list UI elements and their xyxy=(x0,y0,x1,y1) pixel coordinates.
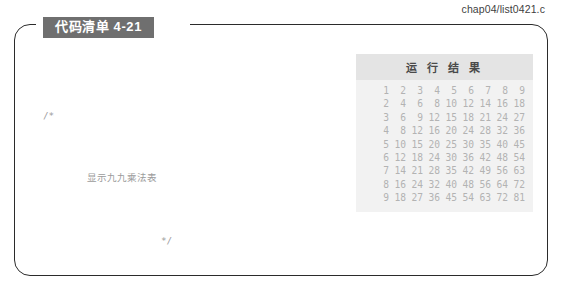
table-cell: 8 xyxy=(423,97,440,110)
table-row: 4812162024283236 xyxy=(364,124,525,137)
table-cell: 16 xyxy=(423,124,440,137)
table-cell: 18 xyxy=(389,191,406,204)
table-cell: 18 xyxy=(508,97,525,110)
table-cell: 45 xyxy=(508,138,525,151)
table-cell: 9 xyxy=(406,111,423,124)
table-cell: 48 xyxy=(491,151,508,164)
table-cell: 32 xyxy=(491,124,508,137)
source-file-path: chap04/list0421.c xyxy=(462,3,545,15)
run-result-title: 运 行 结 果 xyxy=(356,54,533,80)
table-cell: 4 xyxy=(389,97,406,110)
table-cell: 81 xyxy=(508,191,525,204)
table-cell: 15 xyxy=(406,138,423,151)
table-cell: 20 xyxy=(440,124,457,137)
table-cell: 5 xyxy=(372,138,389,151)
table-cell: 7 xyxy=(372,164,389,177)
table-cell: 36 xyxy=(423,191,440,204)
table-cell: 30 xyxy=(457,138,474,151)
table-cell: 12 xyxy=(406,124,423,137)
table-cell: 4 xyxy=(423,84,440,97)
table-cell: 24 xyxy=(457,124,474,137)
table-cell: 14 xyxy=(474,97,491,110)
table-cell: 18 xyxy=(406,151,423,164)
table-cell: 5 xyxy=(440,84,457,97)
table-cell: 2 xyxy=(372,97,389,110)
code-line-2: 显示九九乘法表 xyxy=(43,170,343,186)
table-cell: 24 xyxy=(491,111,508,124)
table-cell: 6 xyxy=(457,84,474,97)
table-cell: 9 xyxy=(372,191,389,204)
table-cell: 16 xyxy=(389,178,406,191)
table-cell: 45 xyxy=(440,191,457,204)
table-cell: 8 xyxy=(372,178,389,191)
table-cell: 3 xyxy=(372,111,389,124)
table-cell: 72 xyxy=(508,178,525,191)
table-cell: 6 xyxy=(389,111,406,124)
table-cell: 12 xyxy=(389,151,406,164)
table-cell: 35 xyxy=(474,138,491,151)
comment-description-token: 显示九九乘法表 xyxy=(87,172,157,183)
table-row: 71421283542495663 xyxy=(364,164,525,177)
table-cell: 40 xyxy=(440,178,457,191)
table-row: 123456789 xyxy=(364,84,525,97)
table-cell: 16 xyxy=(491,97,508,110)
table-cell: 63 xyxy=(474,191,491,204)
table-cell: 21 xyxy=(474,111,491,124)
table-row: 369121518212427 xyxy=(364,111,525,124)
run-result-panel: 运 行 结 果 12345678924681012141618369121518… xyxy=(356,54,533,212)
comment-open-token: /* xyxy=(43,110,54,121)
table-cell: 54 xyxy=(508,151,525,164)
table-cell: 1 xyxy=(372,84,389,97)
table-cell: 42 xyxy=(474,151,491,164)
table-row: 91827364554637281 xyxy=(364,191,525,204)
table-cell: 12 xyxy=(423,111,440,124)
table-row: 81624324048566472 xyxy=(364,178,525,191)
table-cell: 15 xyxy=(440,111,457,124)
code-block: /* 显示九九乘法表 */ #include <stdio.h> int mai… xyxy=(43,61,343,291)
table-cell: 24 xyxy=(423,151,440,164)
table-cell: 7 xyxy=(474,84,491,97)
listing-number-tag: 代码清单 4-21 xyxy=(43,17,154,38)
table-cell: 36 xyxy=(508,124,525,137)
table-cell: 21 xyxy=(406,164,423,177)
table-row: 24681012141618 xyxy=(364,97,525,110)
table-cell: 4 xyxy=(372,124,389,137)
table-cell: 8 xyxy=(389,124,406,137)
table-cell: 12 xyxy=(457,97,474,110)
table-cell: 32 xyxy=(423,178,440,191)
table-cell: 36 xyxy=(457,151,474,164)
table-cell: 10 xyxy=(389,138,406,151)
table-cell: 30 xyxy=(440,151,457,164)
table-cell: 35 xyxy=(440,164,457,177)
table-cell: 28 xyxy=(423,164,440,177)
table-cell: 20 xyxy=(423,138,440,151)
table-cell: 64 xyxy=(491,178,508,191)
table-cell: 3 xyxy=(406,84,423,97)
table-cell: 40 xyxy=(491,138,508,151)
table-cell: 18 xyxy=(457,111,474,124)
table-cell: 72 xyxy=(491,191,508,204)
table-cell: 24 xyxy=(406,178,423,191)
table-cell: 8 xyxy=(491,84,508,97)
code-line-1: /* xyxy=(43,108,343,124)
table-cell: 10 xyxy=(440,97,457,110)
comment-close-token: */ xyxy=(161,235,172,246)
table-cell: 6 xyxy=(406,97,423,110)
table-cell: 27 xyxy=(508,111,525,124)
code-line-3: */ xyxy=(43,233,343,249)
table-cell: 49 xyxy=(474,164,491,177)
code-listing-card: /* 显示九九乘法表 */ #include <stdio.h> int mai… xyxy=(14,24,548,276)
table-cell: 2 xyxy=(389,84,406,97)
table-cell: 56 xyxy=(491,164,508,177)
table-cell: 6 xyxy=(372,151,389,164)
table-cell: 54 xyxy=(457,191,474,204)
table-cell: 25 xyxy=(440,138,457,151)
table-cell: 63 xyxy=(508,164,525,177)
table-cell: 27 xyxy=(406,191,423,204)
table-cell: 14 xyxy=(389,164,406,177)
multiplication-table: 1234567892468101214161836912151821242748… xyxy=(356,80,533,207)
table-row: 61218243036424854 xyxy=(364,151,525,164)
table-cell: 48 xyxy=(457,178,474,191)
table-cell: 56 xyxy=(474,178,491,191)
table-cell: 9 xyxy=(508,84,525,97)
